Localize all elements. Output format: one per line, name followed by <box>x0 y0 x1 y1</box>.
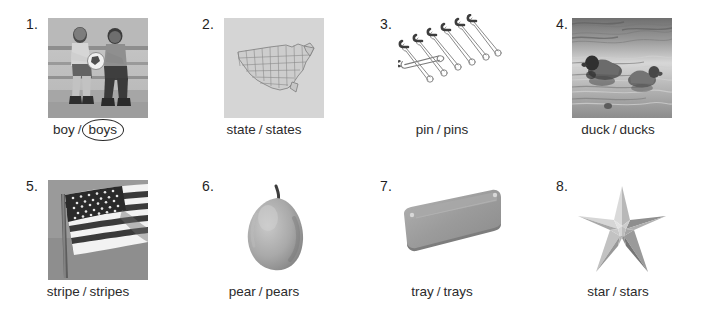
singular-option-5[interactable]: stripe <box>47 284 80 299</box>
ducks-photo <box>572 18 672 118</box>
item-number: 1. <box>26 17 38 31</box>
pear-illustration <box>228 178 324 280</box>
caption-separator: / <box>610 122 620 137</box>
plural-option-1-circled[interactable]: boys <box>85 121 122 139</box>
plural-option-7[interactable]: trays <box>444 284 473 299</box>
plural-option-6[interactable]: pears <box>266 284 300 299</box>
caption-separator: / <box>434 284 444 299</box>
item-number: 3. <box>380 17 392 31</box>
boys-photo <box>48 18 148 118</box>
plural-option-5[interactable]: stripes <box>90 284 130 299</box>
caption-separator: / <box>610 284 620 299</box>
caption-separator: / <box>256 122 266 137</box>
item-caption: state/states <box>176 121 352 139</box>
item-number: 4. <box>556 17 568 31</box>
plural-option-2[interactable]: states <box>266 122 302 137</box>
singular-option-6[interactable]: pear <box>229 284 256 299</box>
worksheet-item-4[interactable]: 4. <box>530 0 702 160</box>
item-caption: boy/boys <box>0 121 176 139</box>
star-illustration <box>568 176 676 280</box>
plural-option-8[interactable]: stars <box>620 284 649 299</box>
singular-option-7[interactable]: tray <box>411 284 434 299</box>
worksheet-item-2[interactable]: 2. <box>176 0 352 160</box>
worksheet-item-7[interactable]: 7. <box>354 162 530 322</box>
item-caption: pin/pins <box>354 121 530 139</box>
flag-photo <box>48 180 148 280</box>
caption-separator: / <box>80 284 90 299</box>
caption-separator: / <box>75 122 85 137</box>
item-number: 6. <box>202 179 214 193</box>
singular-option-1[interactable]: boy <box>53 122 75 137</box>
safety-pins-illustration <box>398 14 510 118</box>
item-number: 5. <box>26 179 38 193</box>
plural-option-3[interactable]: pins <box>444 122 469 137</box>
worksheet-item-3[interactable]: 3. <box>354 0 530 160</box>
item-caption: star/stars <box>530 283 702 301</box>
worksheet-row-2: 5. <box>0 162 702 322</box>
caption-separator: / <box>256 284 266 299</box>
singular-option-3[interactable]: pin <box>416 122 434 137</box>
worksheet-item-5[interactable]: 5. <box>0 162 176 322</box>
item-number: 2. <box>202 17 214 31</box>
worksheet-item-1[interactable]: 1. <box>0 0 176 160</box>
singular-option-2[interactable]: state <box>226 122 255 137</box>
plural-option-4[interactable]: ducks <box>620 122 655 137</box>
singular-option-8[interactable]: star <box>587 284 610 299</box>
tray-illustration <box>396 184 514 276</box>
worksheet-row-1: 1. <box>0 0 702 160</box>
item-number: 8. <box>556 179 568 193</box>
worksheet-item-8[interactable]: 8. <box>530 162 702 322</box>
singular-option-4[interactable]: duck <box>581 122 610 137</box>
caption-separator: / <box>434 122 444 137</box>
worksheet-item-6[interactable]: 6. pe <box>176 162 352 322</box>
us-map-photo <box>224 18 324 118</box>
worksheet-sheet: 1. <box>0 0 702 325</box>
plural-option-1-label: boys <box>89 122 118 137</box>
item-caption: tray/trays <box>354 283 530 301</box>
item-caption: pear/pears <box>176 283 352 301</box>
item-caption: duck/ducks <box>530 121 702 139</box>
item-caption: stripe/stripes <box>0 283 176 301</box>
item-number: 7. <box>380 179 392 193</box>
